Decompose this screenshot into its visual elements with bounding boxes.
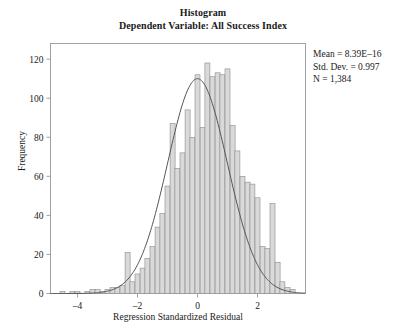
histogram-bar	[255, 198, 260, 294]
x-tick-label: –2	[132, 301, 143, 311]
x-axis-ticks: –4–202	[72, 294, 260, 311]
histogram-bar	[160, 213, 165, 293]
histogram-bar	[190, 137, 195, 293]
histogram-bar	[280, 282, 285, 294]
histogram-bar	[135, 274, 140, 294]
histogram-bar	[270, 204, 275, 294]
histogram-bar	[215, 73, 220, 294]
histogram-bar	[265, 249, 270, 294]
histogram-bar	[155, 227, 160, 293]
histogram-bar	[140, 268, 145, 293]
histogram-bars	[60, 63, 295, 293]
y-tick-label: 20	[34, 250, 44, 260]
histogram-bar	[185, 110, 190, 294]
histogram-bar	[145, 258, 150, 293]
histogram-bar	[235, 151, 240, 294]
histogram-bar	[125, 252, 130, 293]
y-tick-label: 80	[34, 133, 44, 143]
plot-area: 020406080100120 –4–202	[0, 0, 406, 334]
histogram-bar	[200, 127, 205, 293]
histogram-bar	[225, 69, 230, 294]
x-tick-label: 0	[195, 301, 200, 311]
x-tick-label: –4	[72, 301, 83, 311]
histogram-bar	[250, 184, 255, 293]
histogram-figure: Histogram Dependent Variable: All Succes…	[0, 0, 406, 334]
histogram-bar	[165, 186, 170, 293]
y-axis-ticks: 020406080100120	[29, 55, 50, 299]
histogram-bar	[230, 126, 235, 294]
histogram-bar	[120, 286, 125, 294]
y-tick-label: 0	[39, 289, 44, 299]
x-tick-label: 2	[255, 301, 260, 311]
histogram-bar	[180, 153, 185, 294]
histogram-bar	[220, 75, 225, 294]
histogram-bar	[205, 63, 210, 293]
histogram-bar	[245, 182, 250, 293]
histogram-bar	[195, 75, 200, 294]
y-tick-label: 60	[34, 172, 44, 182]
y-tick-label: 100	[29, 94, 44, 104]
histogram-bar	[175, 169, 180, 294]
histogram-bar	[240, 176, 245, 293]
y-tick-label: 120	[29, 55, 44, 65]
histogram-bar	[130, 282, 135, 294]
histogram-bar	[150, 247, 155, 294]
y-tick-label: 40	[34, 211, 44, 221]
